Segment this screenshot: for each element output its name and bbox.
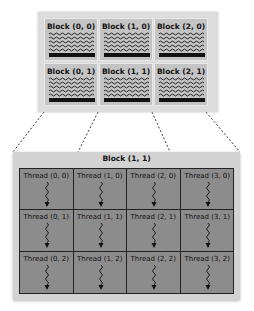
block-label: Block (1, 0) [100,22,152,31]
thread-squiggle-icon [203,265,213,291]
thread-cell: Thread (2, 2) [127,252,181,293]
thread-squiggle-icon [149,265,159,291]
block-label: Block (1, 1) [100,67,152,76]
grid-of-blocks: Block (0, 0) Block (1, 0) Block (2, 0) B… [38,12,218,112]
thread-waves-icon [49,32,95,58]
thread-cell: Thread (2, 0) [127,169,181,210]
block-label: Block (2, 0) [155,22,207,31]
thread-label: Thread (2, 1) [127,213,180,221]
thread-squiggle-icon [149,223,159,249]
thread-cell: Thread (0, 2) [20,252,74,293]
block-cell: Block (0, 0) [44,18,98,61]
block-label: Block (0, 0) [45,22,97,31]
thread-label: Thread (1, 2) [74,255,127,263]
block-label: Block (0, 1) [45,67,97,76]
thread-cell: Thread (1, 1) [74,210,128,251]
block-cell: Block (2, 0) [154,18,208,61]
thread-grid: Thread (0, 0) Thread (1, 0) Thread (2, 0… [19,168,234,294]
block-cell: Block (1, 1) [99,63,153,106]
thread-squiggle-icon [42,265,52,291]
thread-cell: Thread (3, 2) [181,252,235,293]
block-cell: Block (1, 0) [99,18,153,61]
thread-label: Thread (1, 1) [74,213,127,221]
thread-squiggle-icon [42,182,52,208]
thread-cell: Thread (0, 0) [20,169,74,210]
block-detail-title: Block (1, 1) [13,154,240,163]
block-cell: Block (0, 1) [44,63,98,106]
thread-label: Thread (3, 0) [181,172,235,180]
thread-label: Thread (0, 1) [20,213,73,221]
thread-waves-icon [159,77,205,103]
thread-cell: Thread (3, 0) [181,169,235,210]
thread-squiggle-icon [149,182,159,208]
thread-waves-icon [49,77,95,103]
thread-label: Thread (3, 2) [181,255,235,263]
thread-label: Thread (1, 0) [74,172,127,180]
thread-cell: Thread (1, 0) [74,169,128,210]
thread-cell: Thread (3, 1) [181,210,235,251]
thread-cell: Thread (2, 1) [127,210,181,251]
thread-squiggle-icon [96,223,106,249]
thread-label: Thread (2, 2) [127,255,180,263]
block-detail: Block (1, 1) Thread (0, 0) Thread (1, 0)… [13,152,240,300]
thread-squiggle-icon [96,265,106,291]
thread-label: Thread (0, 0) [20,172,73,180]
block-cell: Block (2, 1) [154,63,208,106]
thread-waves-icon [104,32,150,58]
block-label: Block (2, 1) [155,67,207,76]
thread-waves-icon [104,77,150,103]
thread-label: Thread (2, 0) [127,172,180,180]
thread-squiggle-icon [203,182,213,208]
thread-cell: Thread (0, 1) [20,210,74,251]
thread-cell: Thread (1, 2) [74,252,128,293]
thread-label: Thread (0, 2) [20,255,73,263]
thread-squiggle-icon [42,223,52,249]
thread-waves-icon [159,32,205,58]
thread-label: Thread (3, 1) [181,213,235,221]
thread-squiggle-icon [203,223,213,249]
thread-squiggle-icon [96,182,106,208]
